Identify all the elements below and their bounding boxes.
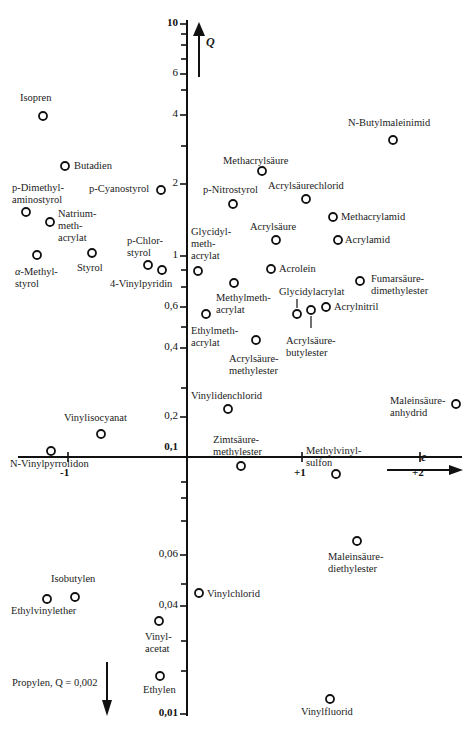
data-point-marker [252,336,260,344]
data-point-marker [158,266,166,274]
data-point-label: Isopren [20,92,52,104]
data-point-label: Ethylmeth- acrylat [191,325,238,349]
data-point-label: Maleinsäure- diethylester [328,551,383,575]
data-point-marker [389,136,397,144]
x-tick-label: +1 [294,466,306,478]
data-point-label: α-Methyl- styrol [15,266,58,290]
data-point-marker [293,310,301,318]
data-point-label: Acrylamid [345,234,390,246]
data-point-marker [272,236,280,244]
data-point-label: p-Chlor- styrol [127,235,163,259]
data-point-marker [157,186,165,194]
data-point-label: Vinyl- acetat [145,631,172,655]
data-point-label: Methacrylsäure [223,155,288,167]
data-point-marker [356,277,364,285]
data-point-label: Acrylsäure- methylester [229,353,279,377]
y-tick-label: 4 [173,107,179,119]
data-point-marker [302,195,310,203]
data-point-marker [43,595,51,603]
y-tick-label: 10 [167,16,178,28]
data-point-label: Ethylen [143,684,176,696]
data-point-label: Methylmeth- acrylat [216,292,271,316]
data-point-label: p-Dimethyl- aminostyrol [12,182,64,206]
data-point-marker [224,405,232,413]
data-point-label: Methacrylamid [341,211,405,223]
data-point-label: Methylvinyl- sulfon [306,445,361,469]
e-arrow-head-icon [449,465,463,475]
data-point-marker [47,447,55,455]
y-tick-label: 2 [173,176,179,188]
data-point-marker [307,306,315,314]
y-tick-label: 6 [173,66,179,78]
data-point-marker [326,695,334,703]
y-axis-title: Q [206,35,215,50]
data-point-label: p-Cyanostyrol [89,183,149,195]
y-tick-label: 0,04 [159,598,178,610]
data-point-marker [46,218,54,226]
data-point-marker [61,162,69,170]
data-point-marker [237,462,245,470]
propylen-arrow-head-icon [102,700,112,716]
data-point-label: N-Vinylpyrrolidon [10,458,89,470]
data-point-marker [194,267,202,275]
data-point-marker [33,251,41,259]
data-point-marker [353,537,361,545]
data-point-label: Styrol [77,262,103,274]
data-point-marker [322,303,330,311]
data-point-marker [155,617,163,625]
data-point-marker [144,261,152,269]
data-point-label: Vinylidenchlorid [191,390,262,402]
data-point-marker [156,672,164,680]
data-point-marker [71,593,79,601]
data-point-label: Natrium- meth- acrylat [58,208,97,244]
propylen-note: Propylen, Q = 0,002 [12,677,98,688]
data-point-marker [195,589,203,597]
data-point-label: Glycidyl- meth- acrylat [191,226,231,262]
data-point-marker [39,112,47,120]
data-point-marker [88,249,96,257]
data-point-label: Maleinsäure- anhydrid [390,395,445,419]
data-point-marker [329,213,337,221]
y-tick-label: 0,06 [159,547,178,559]
data-point-label: 4-Vinylpyridin [110,278,172,290]
data-point-label: Acrylnitril [334,301,378,313]
data-point-marker [267,265,275,273]
y-tick-label: 1 [173,248,179,260]
data-point-marker [334,236,342,244]
data-point-label: Acrolein [279,263,316,275]
data-point-label: Glycidylacrylat [279,286,344,298]
data-point-label: Isobutylen [51,573,95,585]
y-tick-label: 0,4 [164,340,178,352]
data-point-marker [229,200,237,208]
data-point-marker [332,470,340,478]
y-tick-label: 0,01 [159,706,178,718]
data-point-label: Fumarsäure- dimethylester [371,273,428,297]
y-tick-label: 0,1 [164,440,178,452]
x-axis-title: e [421,450,426,465]
data-point-label: Butadien [74,160,112,172]
data-point-marker [258,167,266,175]
x-tick-label: +2 [412,466,424,478]
data-point-marker [230,279,238,287]
data-point-label: Acrylsäure- butylester [286,335,336,359]
data-point-label: Acrylsäure [250,221,296,233]
data-point-label: Vinylisocyanat [64,412,127,424]
data-point-label: p-Nitrostyrol [203,184,258,196]
data-point-label: Vinylchlorid [207,588,260,600]
data-point-marker [97,430,105,438]
data-point-marker [452,400,460,408]
data-point-label: Acrylsäurechlorid [268,180,344,192]
data-point-label: Vinylfluorid [301,706,353,718]
data-point-label: Zimtsäure- methylester [213,434,262,458]
y-tick-label: 0,2 [164,409,178,421]
data-point-marker [202,310,210,318]
data-point-marker [22,208,30,216]
data-point-label: Ethylvinylether [11,605,76,617]
y-axis-ticks [180,24,187,714]
y-tick-label: 0,6 [164,299,178,311]
data-point-label: N-Butylmaleinimid [348,117,430,129]
q-arrow-head-icon [193,22,205,36]
